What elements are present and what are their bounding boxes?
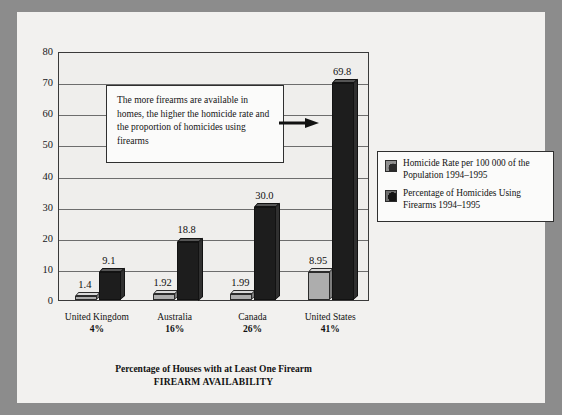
bar-value-label: 1.92	[142, 278, 184, 289]
category-name: United Kingdom	[65, 312, 129, 322]
bar-homicide-rate	[230, 294, 252, 300]
bar-face	[332, 83, 354, 300]
bar-top	[254, 203, 280, 207]
legend-label: Percentage of Homicides Using Firearms 1…	[403, 188, 546, 211]
bar-top	[177, 238, 203, 242]
gridline	[59, 178, 368, 179]
x-axis-title: Percentage of Houses with at Least One F…	[58, 364, 369, 374]
y-axis-tick-label: 40	[27, 172, 53, 183]
y-axis-tick-label: 70	[27, 78, 53, 89]
chart-page: 01020304050607080 The more firearms are …	[17, 12, 545, 403]
bar-side	[275, 202, 280, 300]
y-axis-tick-label: 20	[27, 234, 53, 245]
bar-face	[153, 294, 175, 300]
y-axis-tick-label: 60	[27, 109, 53, 120]
bar-top	[308, 268, 334, 272]
right-arrow-icon	[279, 118, 319, 128]
x-axis-category-label: United States41%	[280, 311, 380, 335]
bar-value-label: 1.99	[219, 278, 261, 289]
y-axis-tick-label: 30	[27, 203, 53, 214]
y-axis-tick-label: 50	[27, 140, 53, 151]
bar-top	[153, 290, 179, 294]
bar-face	[308, 272, 330, 300]
bar-top	[332, 79, 358, 83]
bar-side	[353, 79, 358, 300]
gridline	[59, 209, 368, 210]
legend-swatch-light-icon	[385, 160, 397, 172]
bar-homicide-rate	[308, 272, 330, 300]
bar-homicide-rate	[153, 294, 175, 300]
category-name: Australia	[157, 312, 192, 322]
callout-text: The more firearms are available in homes…	[117, 95, 269, 146]
category-name: Canada	[238, 312, 267, 322]
y-axis-tick-label: 10	[27, 265, 53, 276]
y-axis-tick-label: 0	[27, 296, 53, 307]
gridline	[59, 240, 368, 241]
legend-label: Homicide Rate per 100 000 of the Populat…	[403, 158, 546, 181]
y-axis: 01020304050607080	[23, 52, 53, 301]
legend-item: Percentage of Homicides Using Firearms 1…	[385, 188, 546, 211]
bar-pct-firearms	[177, 242, 199, 301]
bar-top	[75, 292, 101, 296]
y-axis-tick-label: 80	[27, 47, 53, 58]
bar-side	[120, 267, 125, 300]
bar-face	[230, 294, 252, 300]
callout-box: The more firearms are available in homes…	[106, 85, 284, 163]
bar-value-label: 1.4	[64, 280, 106, 291]
legend-swatch-dark-icon	[385, 190, 397, 202]
bar-value-label: 8.95	[297, 256, 339, 267]
bar-top	[99, 268, 125, 272]
bar-face	[177, 242, 199, 301]
x-axis-subtitle: FIREARM AVAILABILITY	[58, 377, 369, 387]
bar-value-label: 9.1	[88, 256, 130, 267]
category-sublabel: 41%	[280, 323, 380, 335]
legend: Homicide Rate per 100 000 of the Populat…	[377, 151, 554, 222]
bar-value-label: 30.0	[243, 191, 285, 202]
bar-top	[230, 290, 256, 294]
bar-value-label: 18.8	[166, 225, 208, 236]
bar-side	[198, 237, 203, 300]
bar-face	[75, 296, 97, 300]
bar-pct-firearms	[332, 83, 354, 300]
bar-homicide-rate	[75, 296, 97, 300]
bar-value-label: 69.8	[321, 67, 363, 78]
category-name: United States	[305, 312, 356, 322]
legend-item: Homicide Rate per 100 000 of the Populat…	[385, 158, 546, 181]
